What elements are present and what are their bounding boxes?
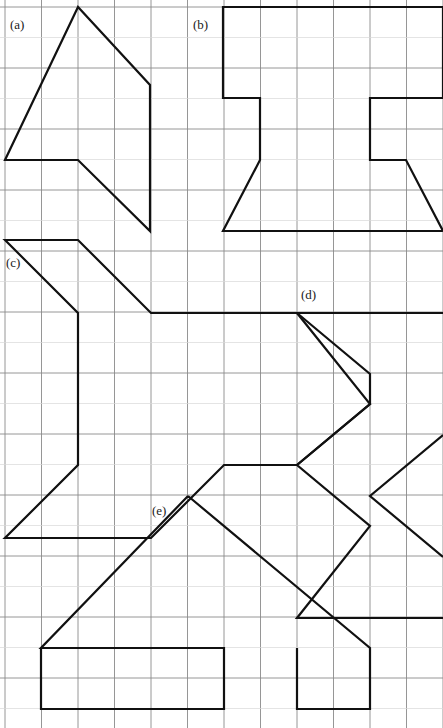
shape-d-outline bbox=[297, 313, 443, 618]
shape-label-a: (a) bbox=[10, 18, 24, 31]
shape-e-outline bbox=[41, 496, 370, 709]
shape-label-d: (d) bbox=[301, 288, 316, 301]
shape-layer bbox=[0, 0, 443, 728]
shape-c-outline bbox=[5, 240, 370, 538]
shape-b-outline bbox=[223, 7, 443, 231]
shape-a-outline bbox=[5, 7, 150, 231]
shape-label-e: (e) bbox=[152, 504, 166, 517]
shape-label-c: (c) bbox=[6, 256, 20, 269]
figure-canvas: (a)(b)(c)(d)(e) bbox=[0, 0, 443, 728]
shape-label-b: (b) bbox=[193, 18, 208, 31]
